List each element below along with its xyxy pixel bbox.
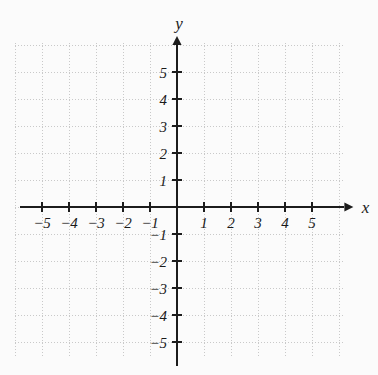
y-tick-label: −3: [149, 281, 167, 297]
grid: [15, 43, 345, 358]
x-tick-label: 1: [200, 215, 208, 231]
x-tick-label: 5: [308, 215, 316, 231]
y-tick-label: 2: [160, 146, 168, 162]
x-tick-label: 4: [281, 215, 289, 231]
y-tick-label: −5: [149, 335, 167, 351]
x-tick-label: −2: [114, 215, 132, 231]
x-axis-label: x: [361, 198, 370, 217]
coordinate-plane-svg: −5−4−3−2−11234554321−1−2−3−4−5xy: [0, 0, 378, 375]
axis-labels: xy: [173, 14, 369, 217]
x-axis-arrowhead: [344, 202, 353, 211]
y-tick-label: −2: [149, 254, 167, 270]
x-tick-label: −3: [87, 215, 105, 231]
y-tick-label: 3: [159, 119, 168, 135]
y-tick-label: 4: [160, 92, 168, 108]
y-tick-label: 5: [160, 65, 168, 81]
x-tick-label: −4: [60, 215, 78, 231]
x-tick-label: −5: [33, 215, 51, 231]
y-tick-label: −1: [149, 227, 167, 243]
coordinate-plane: −5−4−3−2−11234554321−1−2−3−4−5xy: [0, 0, 378, 375]
y-tick-label: −4: [149, 308, 167, 324]
x-tick-label: 3: [253, 215, 262, 231]
axes: [20, 36, 353, 366]
y-axis-label: y: [173, 14, 183, 33]
y-axis-arrowhead: [172, 36, 181, 45]
x-tick-label: 2: [227, 215, 235, 231]
y-tick-label: 1: [160, 173, 168, 189]
